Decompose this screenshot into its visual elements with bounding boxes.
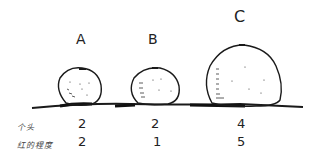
- orange-b: [131, 68, 179, 105]
- redness-a: 2: [78, 134, 86, 149]
- label-c: C: [234, 7, 245, 26]
- orange-c: [206, 45, 281, 106]
- size-b: 2: [151, 116, 159, 131]
- label-a: A: [76, 31, 86, 47]
- size-row-label: 个头: [17, 121, 35, 132]
- redness-c: 5: [237, 134, 245, 149]
- redness-b: 1: [153, 134, 161, 149]
- orange-a: [58, 68, 101, 106]
- redness-row-label: 红的程度: [17, 139, 53, 150]
- size-a: 2: [78, 116, 86, 131]
- size-c: 4: [237, 116, 245, 131]
- label-b: B: [148, 31, 158, 47]
